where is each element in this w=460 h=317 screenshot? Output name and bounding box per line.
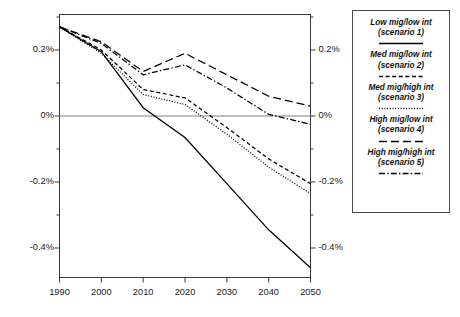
x-axis-tick-label: 2040 [251, 287, 287, 297]
y-axis-left-tick-label: -0.4% [6, 242, 54, 252]
legend-entry-scenario-3[interactable]: Med mig/high int(scenario 3) [357, 83, 445, 112]
legend-line-sample-scenario-3 [377, 105, 425, 112]
legend-entry-scenario-4[interactable]: High mig/low int(scenario 4) [357, 115, 445, 144]
x-axis-tick-label: 2020 [167, 287, 203, 297]
legend-line-sample-scenario-2 [377, 73, 425, 80]
x-axis-tick-label: 1990 [42, 287, 78, 297]
legend-entry-scenario-5[interactable]: High mig/high int(scenario 5) [357, 148, 445, 177]
legend-entry-scenario-1[interactable]: Low mig/low int(scenario 1) [357, 18, 445, 47]
legend-entry-scenario-2[interactable]: Med mig/low int(scenario 2) [357, 50, 445, 79]
chart-legend: Low mig/low int(scenario 1)Med mig/low i… [352, 10, 450, 213]
legend-line-sample-scenario-1 [377, 40, 425, 47]
legend-label-line2: (scenario 4) [357, 125, 445, 135]
legend-label-line1: Med mig/high int [357, 83, 445, 93]
legend-label-line2: (scenario 3) [357, 93, 445, 103]
legend-label-line1: Med mig/low int [357, 50, 445, 60]
y-axis-left-tick-label: 0% [6, 110, 54, 120]
y-axis-right-tick-label: -0.4% [319, 242, 361, 252]
legend-label-line1: High mig/low int [357, 115, 445, 125]
chart-figure: 0.2%0%-0.2%-0.4% 0.2%0%-0.2%-0.4% 199020… [0, 0, 460, 317]
axis-ticks [55, 17, 316, 283]
y-axis-left-tick-label: -0.2% [6, 176, 54, 186]
x-axis-tick-label: 2030 [209, 287, 245, 297]
series-line-scenario-5 [60, 27, 311, 124]
series-line-scenario-1 [60, 27, 311, 268]
x-axis-tick-label: 2000 [83, 287, 119, 297]
series-line-scenario-2 [60, 27, 311, 184]
x-axis-tick-label: 2010 [125, 287, 161, 297]
legend-line-sample-scenario-4 [377, 138, 425, 145]
series-line-scenario-4 [60, 27, 311, 106]
legend-label-line2: (scenario 5) [357, 158, 445, 168]
legend-label-line2: (scenario 2) [357, 61, 445, 71]
legend-label-line1: Low mig/low int [357, 18, 445, 28]
legend-label-line2: (scenario 1) [357, 28, 445, 38]
series-line-scenario-3 [60, 27, 311, 194]
legend-label-line1: High mig/high int [357, 148, 445, 158]
y-axis-left-tick-label: 0.2% [6, 44, 54, 54]
data-series-group [60, 27, 311, 268]
x-axis-tick-label: 2050 [293, 287, 329, 297]
plot-frame [60, 15, 311, 278]
legend-line-sample-scenario-5 [377, 170, 425, 177]
